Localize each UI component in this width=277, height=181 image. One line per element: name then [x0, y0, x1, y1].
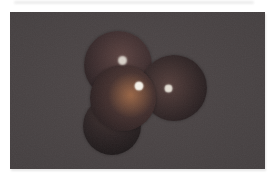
book-page [0, 0, 277, 181]
sphere-center-front [90, 65, 156, 131]
sphere-top-left-specular-highlight [120, 58, 125, 63]
sphere-right-specular-highlight [166, 86, 171, 91]
molecule-photo [10, 12, 265, 169]
page-scan-smudge [14, 1, 254, 4]
sphere-center-front-specular-highlight [136, 83, 142, 89]
photo-scene [10, 12, 265, 169]
